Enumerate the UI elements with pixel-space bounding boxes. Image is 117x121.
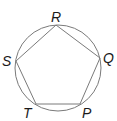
vertex-label-s: S [2, 53, 12, 69]
vertex-label-t: T [23, 105, 33, 121]
vertex-label-r: R [51, 9, 61, 25]
vertex-label-q: Q [103, 50, 114, 66]
pentagon-diagram: R Q P T S [0, 0, 117, 121]
circumscribed-circle [15, 25, 101, 111]
vertex-label-p: P [82, 105, 92, 121]
